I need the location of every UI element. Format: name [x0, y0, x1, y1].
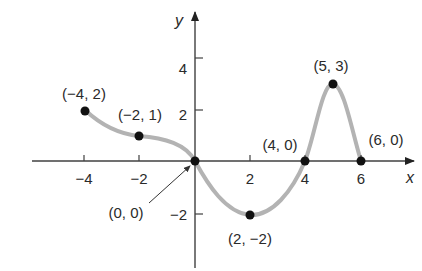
point-label: (5, 3): [313, 57, 348, 74]
x-tick-label: 2: [246, 170, 254, 187]
y-axis-label: y: [174, 12, 184, 29]
y-tick-label: 2: [179, 106, 187, 123]
x-tick-label: 6: [357, 170, 365, 187]
point-neg4-2: [81, 107, 90, 116]
x-tick-label: −4: [75, 170, 92, 187]
point-2-neg2: [246, 211, 255, 220]
y-tick-label: 4: [179, 60, 187, 77]
point-label: (4, 0): [262, 136, 297, 153]
point-6-0: [357, 157, 366, 166]
y-tick-label: −2: [170, 206, 187, 223]
x-tick-label: 4: [301, 170, 309, 187]
x-ticks: [84, 155, 361, 161]
point-4-0: [301, 157, 310, 166]
function-curve: [85, 84, 361, 215]
y-ticks: [195, 58, 203, 214]
point-label: (−2, 1): [118, 106, 162, 123]
point-5-3: [329, 80, 338, 89]
x-axis-label: x: [405, 169, 415, 186]
point-label: (2, −2): [228, 230, 272, 247]
x-tick-label: −2: [130, 170, 147, 187]
point-neg2-1: [135, 132, 144, 141]
origin-annotation-arrow: [149, 166, 190, 203]
point-label: (0, 0): [108, 204, 143, 221]
point-label: (6, 0): [368, 131, 403, 148]
function-graph: −4 −2 2 4 6 4 2 −2 x y (−4, 2) (−2, 1) (…: [0, 0, 422, 271]
point-label: (−4, 2): [62, 85, 106, 102]
point-0-0: [191, 157, 200, 166]
